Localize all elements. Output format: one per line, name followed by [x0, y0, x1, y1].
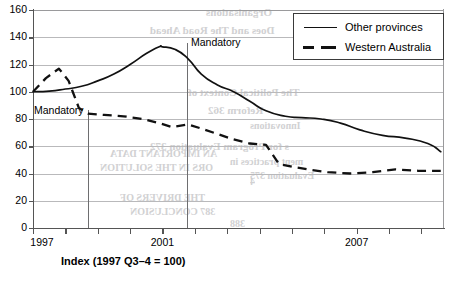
figure-root: OrganisationsDoes and The Road Ahead351T… — [0, 0, 473, 288]
legend-solid-line-icon — [302, 21, 338, 33]
x-axis-caption: Index (1997 Q3–4 = 100) — [61, 255, 185, 267]
legend-dashed-line-icon — [302, 41, 338, 53]
legend-item-other-provinces: Other provinces — [302, 19, 423, 35]
chart-legend: Other provinces Western Australia — [293, 13, 444, 60]
series-line-western-australia — [33, 69, 441, 174]
legend-label-western-australia: Western Australia — [345, 41, 431, 53]
series-line-other-provinces — [33, 46, 441, 152]
legend-item-western-australia: Western Australia — [302, 39, 431, 55]
legend-label-other-provinces: Other provinces — [345, 21, 423, 33]
